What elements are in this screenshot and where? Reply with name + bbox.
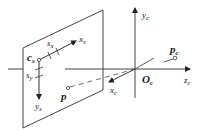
- camera-projection-diagram: cs sx xs sy ys p yc pc Oc zc xc: [0, 0, 203, 133]
- label-xs: xs: [78, 34, 86, 46]
- label-xc: xc: [109, 85, 118, 97]
- image-origin-point: [37, 58, 40, 61]
- label-zc: zc: [183, 75, 192, 87]
- label-sx: sx: [47, 38, 55, 50]
- label-pc: pc: [169, 43, 179, 57]
- projection-ray-to-point: [164, 59, 173, 62]
- image-point-p: [66, 86, 69, 89]
- label-ys: ys: [34, 101, 42, 113]
- projection-ray-upper: [135, 58, 154, 69]
- label-p: p: [60, 90, 67, 102]
- label-sy: sy: [26, 70, 34, 82]
- label-cs: cs: [27, 51, 35, 65]
- camera-x-axis: [109, 69, 135, 82]
- label-Oc: Oc: [142, 73, 153, 87]
- label-yc: yc: [141, 10, 150, 22]
